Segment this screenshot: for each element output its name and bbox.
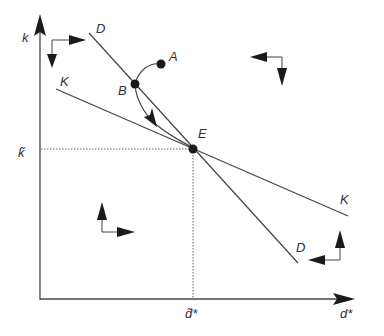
- direction-arrows-bottom-right: [308, 230, 345, 265]
- kk-label-left: K: [60, 74, 70, 89]
- arrow-right-icon: [69, 35, 86, 45]
- dd-label-top: D: [96, 21, 105, 36]
- arrow-down-icon: [47, 54, 57, 68]
- point-a: [157, 60, 166, 69]
- point-b: [131, 80, 140, 89]
- arrow-up-icon: [335, 230, 345, 248]
- direction-arrows-bottom-left: [97, 202, 135, 237]
- path-arrow-icon: [144, 108, 157, 127]
- point-e: [189, 145, 198, 154]
- arrow-right-icon: [117, 227, 135, 237]
- point-a-label: A: [168, 49, 178, 64]
- arrow-left-icon: [308, 255, 325, 265]
- x-axis-label: d*: [340, 306, 353, 321]
- direction-arrows-top-left: [47, 35, 86, 68]
- phase-diagram: k d* k̃ d̃* D D K K A B E: [0, 0, 384, 336]
- k-tilde-label: k̃: [18, 145, 26, 160]
- arrow-down-icon: [277, 68, 287, 86]
- y-axis: [34, 14, 46, 300]
- diagram-canvas: k d* k̃ d̃* D D K K A B E: [0, 0, 384, 336]
- y-axis-label: k: [22, 30, 30, 45]
- kk-line: [56, 89, 348, 216]
- d-tilde-label: d̃*: [185, 306, 198, 321]
- arrow-left-icon: [250, 52, 267, 62]
- path-a-to-b: [135, 64, 161, 84]
- point-b-label: B: [118, 83, 127, 98]
- point-e-label: E: [198, 126, 207, 141]
- kk-label-right: K: [340, 192, 350, 207]
- dd-label-bottom: D: [296, 240, 305, 255]
- direction-arrows-top-right: [250, 52, 287, 86]
- x-axis: [40, 293, 355, 305]
- arrow-up-icon: [97, 202, 107, 220]
